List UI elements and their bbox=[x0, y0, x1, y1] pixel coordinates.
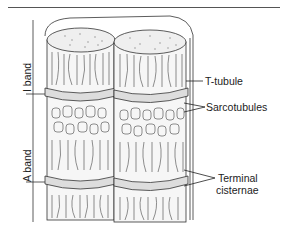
sarcotubules-leader-1 bbox=[184, 103, 205, 107]
myofibril-right bbox=[114, 30, 188, 222]
label-terminal: Terminal bbox=[218, 172, 258, 184]
label-i-band: I band bbox=[21, 63, 33, 92]
label-t-tubule: T-tubule bbox=[205, 75, 243, 87]
label-a-band: A band bbox=[21, 149, 33, 182]
label-cisternae: cisternae bbox=[216, 184, 259, 196]
sarcotubules-leader-2 bbox=[184, 107, 205, 112]
terminal-cisternae-leader-1 bbox=[184, 170, 215, 178]
muscle-fiber-illustration bbox=[0, 0, 288, 239]
terminal-cisternae-leader-2 bbox=[184, 178, 215, 186]
label-sarcotubules: Sarcotubules bbox=[206, 101, 267, 113]
myofibril-left bbox=[45, 28, 116, 220]
